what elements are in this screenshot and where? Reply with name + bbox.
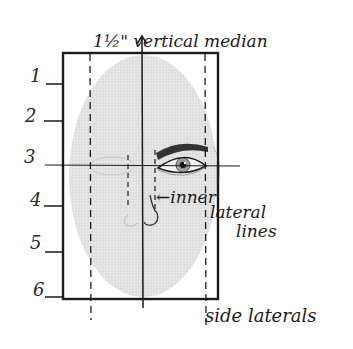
- row-number-6: 6: [33, 279, 44, 300]
- label-inner: ←inner: [156, 187, 217, 207]
- label-lateral: lateral: [210, 202, 266, 222]
- row-number-1: 1: [30, 65, 41, 86]
- vertical-median-line: [142, 38, 143, 308]
- row-number-3: 3: [24, 146, 35, 167]
- label-lines: lines: [236, 221, 277, 241]
- row-ticks: [44, 84, 63, 297]
- row-number-5: 5: [30, 232, 41, 253]
- label-vertical-median: 1½" vertical median: [93, 31, 268, 51]
- label-side-laterals: side laterals: [205, 305, 317, 326]
- row-number-2: 2: [24, 105, 36, 126]
- face-proportion-diagram: 1 2 3 4 5 6 1½" vertical median ←inner l…: [0, 0, 353, 349]
- row-number-4: 4: [29, 189, 41, 210]
